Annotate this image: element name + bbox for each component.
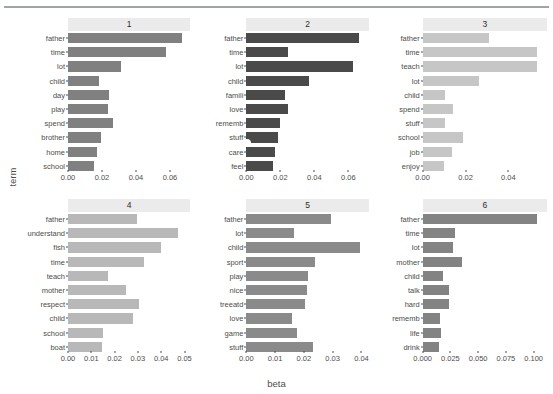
bar-row[interactable]: brother: [68, 132, 190, 142]
bar[interactable]: [68, 147, 97, 157]
bar[interactable]: [246, 132, 277, 142]
bar-row[interactable]: lot: [246, 228, 368, 238]
bar[interactable]: [68, 33, 182, 43]
bar[interactable]: [68, 285, 126, 295]
bar[interactable]: [423, 118, 445, 128]
bar-row[interactable]: father: [68, 33, 190, 43]
bar[interactable]: [423, 242, 454, 252]
bar[interactable]: [246, 228, 293, 238]
bar-row[interactable]: time: [68, 257, 190, 267]
bar-row[interactable]: enjoy: [423, 161, 547, 171]
bar[interactable]: [68, 228, 178, 238]
bar-row[interactable]: father: [246, 33, 368, 43]
bar-row[interactable]: mother: [423, 257, 547, 267]
bar[interactable]: [68, 61, 121, 71]
bar-row[interactable]: time: [246, 47, 368, 57]
bar-row[interactable]: life: [423, 328, 547, 338]
bar[interactable]: [423, 161, 444, 171]
bar-row[interactable]: lot: [423, 242, 547, 252]
bar-row[interactable]: child: [246, 76, 368, 86]
bar[interactable]: [423, 271, 443, 281]
bar-row[interactable]: lot: [68, 61, 190, 71]
bar-row[interactable]: time: [423, 228, 547, 238]
bar[interactable]: [246, 161, 272, 171]
bar-row[interactable]: hard: [423, 299, 547, 309]
bar[interactable]: [68, 118, 113, 128]
bar-row[interactable]: rememb: [423, 313, 547, 323]
bar[interactable]: [423, 328, 441, 338]
bar-row[interactable]: school: [423, 132, 547, 142]
bar-row[interactable]: job: [423, 147, 547, 157]
bar[interactable]: [246, 147, 275, 157]
bar[interactable]: [68, 342, 102, 352]
bar-row[interactable]: love: [246, 104, 368, 114]
bar-row[interactable]: mother: [68, 285, 190, 295]
bar-row[interactable]: lot: [423, 76, 547, 86]
bar[interactable]: [246, 118, 280, 128]
bar-row[interactable]: child: [68, 313, 190, 323]
bar-row[interactable]: lot: [246, 61, 368, 71]
bar[interactable]: [68, 76, 99, 86]
bar[interactable]: [68, 90, 109, 100]
bar-row[interactable]: feel: [246, 161, 368, 171]
bar[interactable]: [246, 299, 304, 309]
bar-row[interactable]: rememb: [246, 118, 368, 128]
bar[interactable]: [246, 47, 287, 57]
bar[interactable]: [423, 147, 452, 157]
bar-row[interactable]: stuff: [423, 118, 547, 128]
bar-row[interactable]: child: [423, 90, 547, 100]
bar-row[interactable]: play: [68, 104, 190, 114]
bar-row[interactable]: talk: [423, 285, 547, 295]
bar[interactable]: [68, 313, 133, 323]
bar-row[interactable]: school: [68, 161, 190, 171]
bar[interactable]: [423, 313, 440, 323]
bar-row[interactable]: school: [68, 328, 190, 338]
bar[interactable]: [423, 47, 538, 57]
bar[interactable]: [423, 299, 449, 309]
bar[interactable]: [246, 33, 359, 43]
bar-row[interactable]: play: [246, 271, 368, 281]
bar[interactable]: [246, 328, 296, 338]
bar[interactable]: [68, 299, 139, 309]
bar-row[interactable]: sport: [246, 257, 368, 267]
bar[interactable]: [246, 257, 315, 267]
bar-row[interactable]: father: [423, 214, 547, 224]
bar-row[interactable]: boat: [68, 342, 190, 352]
bar-row[interactable]: day: [68, 90, 190, 100]
bar[interactable]: [423, 342, 439, 352]
bar[interactable]: [68, 242, 161, 252]
bar[interactable]: [423, 132, 463, 142]
bar[interactable]: [68, 257, 144, 267]
bar-row[interactable]: care: [246, 147, 368, 157]
bar[interactable]: [423, 257, 462, 267]
bar[interactable]: [246, 104, 288, 114]
bar-row[interactable]: drink: [423, 342, 547, 352]
bar-row[interactable]: teach: [423, 61, 547, 71]
bar-row[interactable]: stuff: [246, 342, 368, 352]
bar[interactable]: [246, 90, 285, 100]
bar-row[interactable]: game: [246, 328, 368, 338]
bar[interactable]: [68, 47, 166, 57]
bar-row[interactable]: father: [68, 214, 190, 224]
bar[interactable]: [246, 242, 360, 252]
bar-row[interactable]: time: [68, 47, 190, 57]
bar-row[interactable]: child: [68, 76, 190, 86]
bar-row[interactable]: child: [423, 271, 547, 281]
bar-row[interactable]: famili: [246, 90, 368, 100]
bar-row[interactable]: teach: [68, 271, 190, 281]
bar[interactable]: [68, 214, 137, 224]
bar[interactable]: [246, 285, 306, 295]
bar-row[interactable]: nice: [246, 285, 368, 295]
bar[interactable]: [246, 61, 353, 71]
bar[interactable]: [246, 313, 291, 323]
bar[interactable]: [68, 132, 101, 142]
bar-row[interactable]: understand: [68, 228, 190, 238]
bar-row[interactable]: respect: [68, 299, 190, 309]
bar[interactable]: [423, 33, 489, 43]
bar-row[interactable]: father: [423, 33, 547, 43]
bar-row[interactable]: child: [246, 242, 368, 252]
bar[interactable]: [423, 104, 454, 114]
bar-row[interactable]: time: [423, 47, 547, 57]
bar[interactable]: [246, 214, 331, 224]
bar-row[interactable]: fish: [68, 242, 190, 252]
